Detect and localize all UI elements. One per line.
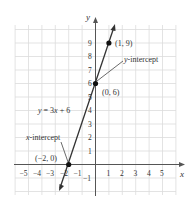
y-tick: 7 [88, 66, 92, 75]
x-tick: 4 [147, 169, 151, 178]
point-1-9 [106, 40, 111, 45]
x-axis-arrow-icon [179, 162, 185, 167]
x-tick: 3 [134, 169, 138, 178]
y-axis-label: y [85, 12, 90, 22]
y-intercept-text: -intercept [128, 55, 159, 64]
x-tick: 1 [107, 169, 111, 178]
point-label-neg2-0: (−2, 0) [35, 154, 57, 163]
x-intercept-leader [61, 142, 68, 162]
point-label-0-6: (0, 6) [102, 88, 120, 97]
point-label-1-9: (1, 9) [115, 39, 133, 48]
coordinate-plane: x y −5 −4 −3 −2 −1 1 2 3 4 5 −1 1 2 3 4 … [0, 0, 195, 203]
y-intercept-label: y-intercept [123, 55, 159, 64]
y-tick: 1 [88, 147, 92, 156]
y-intercept-leader [97, 61, 123, 81]
eq-end: + 6 [58, 106, 71, 115]
x-tick: −4 [33, 169, 41, 178]
x-tick-labels: −5 −4 −3 −2 −1 1 2 3 4 5 [20, 169, 165, 178]
x-tick: −3 [46, 169, 54, 178]
point-neg2-0 [66, 162, 71, 167]
y-tick: 4 [88, 106, 92, 115]
line-arrow-top-icon [111, 24, 116, 31]
x-intercept-label: x-intercept [25, 133, 61, 142]
y-tick: 9 [88, 39, 92, 48]
y-tick: −1 [83, 174, 91, 183]
y-axis-arrow-icon [93, 17, 98, 23]
point-0-6 [93, 81, 98, 86]
line-arrow-bottom-icon [59, 184, 64, 191]
eq-mid: = 3 [42, 106, 55, 115]
x-tick: 5 [160, 169, 164, 178]
y-tick: 8 [88, 52, 92, 61]
x-tick: 2 [120, 169, 124, 178]
x-tick: −5 [20, 169, 28, 178]
x-axis-label: x [179, 169, 184, 179]
x-intercept-text: -intercept [30, 133, 61, 142]
y-tick: 6 [88, 79, 92, 88]
y-tick: 3 [88, 120, 92, 129]
x-tick: −1 [74, 169, 82, 178]
y-tick: 2 [88, 133, 92, 142]
equation-label: y = 3x + 6 [37, 106, 70, 115]
